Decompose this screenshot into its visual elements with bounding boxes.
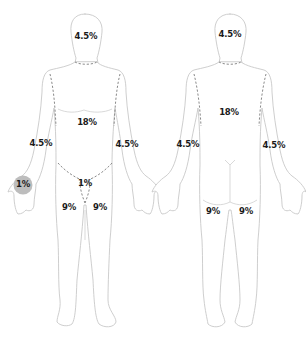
front-left-arm-label: 4.5% [116,139,139,149]
back-left-arm-label: 4.5% [263,140,286,150]
front-right-arm-label: 4.5% [30,138,53,148]
front-figure [8,14,160,327]
back-right-arm-label: 4.5% [177,139,200,149]
front-head-label: 4.5% [75,31,98,41]
back-figure [152,14,306,327]
front-right-leg-label: 9% [62,202,76,212]
front-genitals-label: 1% [78,178,92,188]
front-left-leg-label: 9% [93,202,107,212]
back-left-leg-label: 9% [239,206,253,216]
back-head-label: 4.5% [219,29,242,39]
back-trunk-label: 18% [219,107,239,117]
front-trunk-label: 18% [77,117,97,127]
front-palm-label: 1% [16,179,30,189]
back-right-leg-label: 9% [206,206,220,216]
front-body [8,62,160,327]
back-body [152,62,306,327]
body-diagram [0,0,306,354]
